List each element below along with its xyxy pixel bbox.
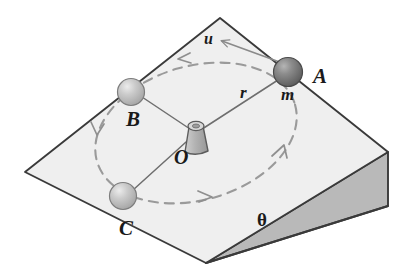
physics-diagram: A B C O m r u θ xyxy=(0,0,408,275)
label-sphere-c: C xyxy=(119,218,133,239)
label-center-o: O xyxy=(174,147,188,167)
label-speed-u: u xyxy=(204,31,213,47)
label-incline-angle-theta: θ xyxy=(257,210,267,229)
sphere-B xyxy=(118,79,145,106)
label-sphere-b: B xyxy=(126,109,140,130)
label-radius-r: r xyxy=(240,84,247,101)
label-sphere-a: A xyxy=(313,66,327,87)
sphere-A xyxy=(274,58,303,87)
post-top-inner xyxy=(192,124,199,128)
sphere-C xyxy=(110,183,137,210)
label-mass-m: m xyxy=(281,86,294,103)
